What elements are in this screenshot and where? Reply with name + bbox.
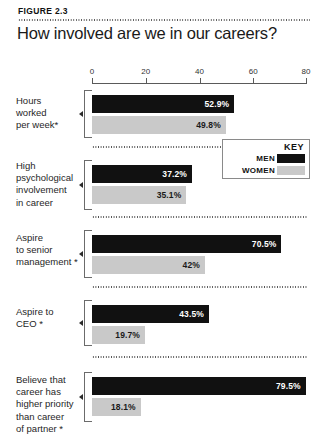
group-pointer-icon [79,111,83,117]
legend-entry-men: MEN [227,154,307,164]
category-label-line: management * [16,256,78,268]
bar-value-label: 37.2% [162,169,187,179]
bar-value-label: 49.8% [196,120,221,130]
bar-men: 52.9% [92,95,234,113]
x-axis-tick-label: 40 [195,67,204,76]
bar-women: 35.1% [92,186,186,204]
category-label-line: higher priority [16,398,78,410]
legend-swatch-women [277,166,305,175]
legend-title: KEY [284,142,304,152]
bar-group: Aspireto seniormanagement *70.5%42% [0,230,327,278]
legend-swatch-men [277,154,305,163]
category-label-line: in career [16,197,78,209]
group-bracket [84,90,92,138]
category-label: Highpsychologicalinvolvementin career [16,160,78,209]
bar-value-label: 42% [183,260,200,270]
group-pointer-icon [79,182,83,188]
bar-value-label: 43.5% [179,309,204,319]
x-axis-tick-label: 20 [141,67,150,76]
bar-value-label: 79.5% [276,381,301,391]
x-axis-tick-label: 60 [249,67,258,76]
category-label-line: to senior [16,244,78,256]
category-label: Aspireto seniormanagement * [16,232,78,269]
category-label-line: High [16,160,78,172]
header-dotted-rule [18,19,310,21]
category-label: Hoursworkedper week* [16,95,78,132]
bar-group: Believe thatcareer hashigher prioritytha… [0,372,327,422]
category-label-line: Aspire [16,232,78,244]
group-bracket [84,230,92,278]
page-title: How involved are we in our careers? [17,24,277,43]
category-label: Believe thatcareer hashigher prioritytha… [16,374,78,435]
group-pointer-icon [79,251,83,257]
category-label-line: career has [16,386,78,398]
category-label-line: of partner * [16,423,78,435]
category-label-line: Believe that [16,374,78,386]
group-separator [92,286,307,288]
bar-value-label: 19.7% [115,330,140,340]
category-label-line: involvement [16,184,78,196]
bar-value-label: 18.1% [111,402,136,412]
category-label-line: CEO * [16,318,78,330]
x-axis: 020406080 [92,62,307,84]
group-bracket [84,372,92,422]
group-pointer-icon [79,320,83,326]
bar-value-label: 35.1% [157,190,182,200]
bar-women: 18.1% [92,398,141,416]
legend-entry-women: WOMEN [227,166,307,176]
bar-value-label: 70.5% [252,239,277,249]
legend-label-men: MEN [256,154,275,163]
bar-men: 37.2% [92,165,192,183]
x-axis-tick-label: 0 [90,67,94,76]
bar-men: 43.5% [92,305,209,323]
category-label-line: psychological [16,172,78,184]
bar-men: 79.5% [92,377,306,395]
legend-box: KEY MEN WOMEN [222,139,310,179]
bar-men: 70.5% [92,235,281,253]
bar-group: Aspire toCEO *43.5%19.7% [0,300,327,346]
category-label-line: Aspire to [16,306,78,318]
x-axis-tick-label: 80 [302,67,311,76]
group-separator [92,216,307,218]
category-label-line: worked [16,107,78,119]
bar-women: 49.8% [92,116,226,134]
figure-number: FIGURE 2.3 [18,6,68,16]
chart-plot-area: Hoursworkedper week*52.9%49.8%Highpsycho… [0,84,327,433]
bar-group: Hoursworkedper week*52.9%49.8% [0,90,327,138]
group-pointer-icon [79,394,83,400]
category-label: Aspire toCEO * [16,306,78,330]
group-bracket [84,300,92,346]
category-label-line: Hours [16,95,78,107]
bar-women: 42% [92,256,205,274]
group-separator [92,356,307,358]
bar-value-label: 52.9% [205,99,230,109]
category-label-line: per week* [16,119,78,131]
bar-women: 19.7% [92,326,145,344]
category-label-line: than career [16,411,78,423]
group-bracket [84,160,92,210]
legend-label-women: WOMEN [242,166,275,175]
